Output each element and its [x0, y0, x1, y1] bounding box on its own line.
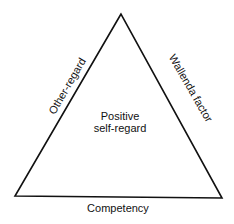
center-label-line1: Positive — [80, 110, 160, 122]
triangle-diagram: Positive self-regard Other-regard Wallen… — [0, 0, 234, 224]
center-label: Positive self-regard — [80, 110, 160, 134]
bottom-side-label: Competency — [78, 202, 158, 214]
center-label-line2: self-regard — [80, 122, 160, 134]
